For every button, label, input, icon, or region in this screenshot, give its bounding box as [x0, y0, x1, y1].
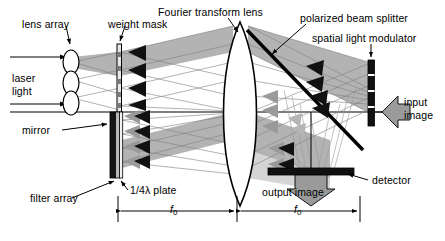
label-laser-light-line1: laser	[12, 72, 35, 84]
label-input-image-line2: image	[404, 109, 433, 121]
label-fourier-transform-lens: Fourier transform lens	[158, 6, 263, 18]
label-polarized-beam-splitter: polarized beam splitter	[300, 12, 408, 24]
label-quarter-wave-plate: 1/4λ plate	[130, 184, 177, 196]
label-laser-light-line2: light	[12, 85, 32, 97]
label-mirror: mirror	[22, 124, 50, 136]
weight-mask	[117, 44, 122, 112]
label-weight-mask: weight mask	[108, 18, 167, 30]
label-f0-left-subscript: 0	[173, 208, 178, 217]
label-f0-right-subscript: 0	[297, 208, 302, 217]
label-spatial-light-modulator: spatial light modulator	[312, 32, 416, 44]
lens-array	[63, 50, 79, 115]
label-filter-array: filter array	[30, 192, 78, 204]
label-lens-array: lens array	[22, 18, 69, 30]
spatial-light-modulator	[368, 60, 375, 126]
label-input-image-line1: input	[404, 96, 427, 108]
label-f0-right: f0	[294, 203, 302, 219]
label-detector: detector	[372, 174, 411, 186]
optical-diagram-figure: lens array weight mask Fourier transform…	[0, 0, 445, 241]
detector	[268, 168, 354, 175]
label-f0-left: f0	[170, 203, 178, 219]
filter-array	[116, 112, 120, 178]
label-output-image: output image	[262, 186, 324, 198]
mirror	[110, 112, 116, 178]
quarter-wave-plate	[120, 112, 123, 178]
